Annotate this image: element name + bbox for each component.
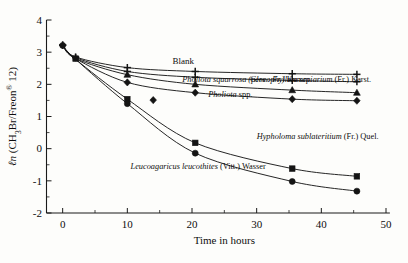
series-label-italic: Hypholoma sublateritium xyxy=(256,132,342,141)
series-label-roman: spp. xyxy=(237,90,253,99)
marker-square xyxy=(354,174,360,180)
series-label-roman: (Fr.) Karst. xyxy=(332,75,371,84)
x-tick-label: 30 xyxy=(251,218,263,230)
series-label-roman: (Vitt.) Wasser xyxy=(218,162,266,171)
data-point-4-5 xyxy=(354,174,360,180)
marker-square xyxy=(192,140,198,146)
origin-cluster-marker xyxy=(60,42,66,48)
chart-svg: 43210-1-201020304050 BlankPholiota squar… xyxy=(0,0,408,263)
data-point-5-5 xyxy=(354,188,360,194)
y-title-ln: ℓn xyxy=(6,155,18,166)
series-label-2: Gloeophyllum sepiarium (Fr.) Karst. xyxy=(250,75,371,84)
marker-circle xyxy=(124,101,130,107)
marker-square xyxy=(73,56,79,62)
y-tick-label: -2 xyxy=(33,207,42,219)
y-title-mid: Br/Freon xyxy=(6,90,18,130)
series-label-4: Hypholoma sublateritium (Fr.) Quel. xyxy=(256,132,379,141)
x-tick-label: 40 xyxy=(316,218,328,230)
y-title-tail: 12) xyxy=(6,67,19,85)
early-cluster-marker xyxy=(73,56,79,62)
marker-circle xyxy=(354,188,360,194)
y-tick-label: 0 xyxy=(37,142,43,154)
y-tick-label: 3 xyxy=(37,46,43,58)
data-point-5-3 xyxy=(192,150,198,156)
y-tick-label: 1 xyxy=(37,110,43,122)
y-tick-label: 4 xyxy=(37,14,43,26)
data-point-4-3 xyxy=(192,140,198,146)
x-tick-label: 50 xyxy=(381,218,393,230)
data-point-4-4 xyxy=(289,166,295,172)
marker-circle xyxy=(60,42,66,48)
marker-circle xyxy=(192,150,198,156)
x-axis-title: Time in hours xyxy=(194,234,255,246)
series-label-roman: (Fr.) Quel. xyxy=(342,132,379,141)
series-label-italic: Gloeophyllum sepiarium xyxy=(250,75,332,84)
series-label-italic: Pholiota xyxy=(207,90,237,99)
x-tick-label: 0 xyxy=(60,218,66,230)
y-tick-label: -1 xyxy=(33,175,42,187)
series-label-3: Pholiota spp. xyxy=(207,90,252,99)
marker-circle xyxy=(289,178,295,184)
data-point-5-2 xyxy=(124,101,130,107)
chart-figure: 43210-1-201020304050 BlankPholiota squar… xyxy=(0,0,408,263)
series-label-5: Leucoagaricus leucothites (Vitt.) Wasser xyxy=(130,162,266,171)
y-title-open: (CH xyxy=(6,134,19,156)
y-tick-label: 2 xyxy=(37,78,43,90)
marker-square xyxy=(289,166,295,172)
series-label-0: Blank xyxy=(173,56,195,66)
data-point-5-4 xyxy=(289,178,295,184)
x-tick-label: 20 xyxy=(187,218,199,230)
series-label-italic: Leucoagaricus leucothites xyxy=(130,162,218,171)
x-tick-label: 10 xyxy=(122,218,134,230)
